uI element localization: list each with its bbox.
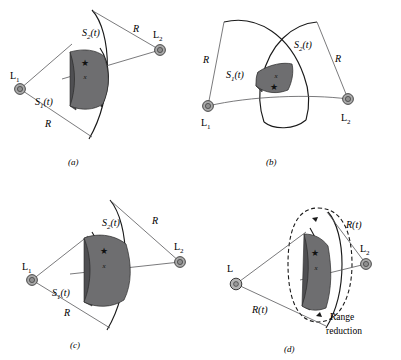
range-label-c-lower: R: [63, 307, 70, 318]
range-label-b-left: R: [202, 54, 209, 65]
field-s1-label-a: S1(t): [35, 96, 54, 110]
target-star-c: ★: [100, 246, 108, 256]
range-label-a-upper: R: [132, 23, 139, 34]
landmark-l2-b[interactable]: [343, 94, 354, 105]
panel-b: x ★ L1 L2 S1(t) S2(t) R R (b): [200, 0, 401, 180]
range-label-a-lower: R: [44, 118, 51, 129]
caption-b: (b): [266, 157, 277, 167]
range-label-b-right: R: [334, 53, 341, 64]
landmark-l2-label-c: L2: [174, 241, 184, 255]
range-reduction-label-line1: Range: [330, 312, 354, 322]
panel-c: ★ x L1 L2 S1(t) S2(t) R R (c): [0, 180, 200, 360]
range-label-d-lower: R(t): [251, 304, 268, 316]
target-star-d: ★: [311, 248, 319, 258]
reduction-arrow-bottom-d: [316, 312, 322, 317]
caption-d: (d): [284, 344, 295, 354]
arc-bottom-b: [264, 120, 306, 128]
range-label-c-upper: R: [151, 215, 158, 226]
landmark-l2-d[interactable]: [361, 259, 372, 270]
landmark-l2-c[interactable]: [175, 257, 186, 268]
reduction-arrow-top-d: [312, 217, 318, 222]
field-s2-label-a: S2(t): [82, 27, 101, 41]
landmark-l1-label-c: L1: [22, 261, 32, 275]
landmark-l-label-d: L: [227, 263, 233, 274]
cone-line-d-top: [236, 232, 306, 284]
landmark-l1-label-b: L1: [201, 117, 211, 131]
landmark-l-d[interactable]: [230, 278, 242, 290]
figure-root: ★ x L1 L2 S1(t) S2(t) R R (a): [0, 0, 401, 360]
landmark-l1-c[interactable]: [27, 275, 38, 286]
cone-line-c-top: [32, 236, 88, 280]
landmark-l2-a[interactable]: [155, 45, 166, 56]
landmark-l2-label-b: L2: [341, 112, 351, 126]
target-star-b: ★: [270, 82, 278, 92]
landmark-l2-label-a: L2: [153, 29, 163, 43]
panel-a: ★ x L1 L2 S1(t) S2(t) R R (a): [0, 0, 200, 180]
landmark-l1-b[interactable]: [203, 101, 214, 112]
landmark-l1-label-a: L1: [10, 70, 20, 84]
caption-c: (c): [70, 340, 80, 350]
range-label-d-upper: R(t): [345, 219, 362, 231]
cone-line-a-top: [20, 44, 72, 89]
landmark-l2-label-d: L2: [360, 243, 370, 257]
range-reduction-label-line2: reduction: [326, 326, 362, 336]
field-s2-label-c: S2(t): [102, 217, 121, 231]
landmark-l1-a[interactable]: [15, 84, 26, 95]
caption-a: (a): [68, 157, 79, 167]
panel-d: ★ x L L2 R(t) R(t) Range reduction: [200, 180, 401, 360]
target-region-a: [70, 50, 108, 109]
target-star-a: ★: [81, 58, 89, 68]
